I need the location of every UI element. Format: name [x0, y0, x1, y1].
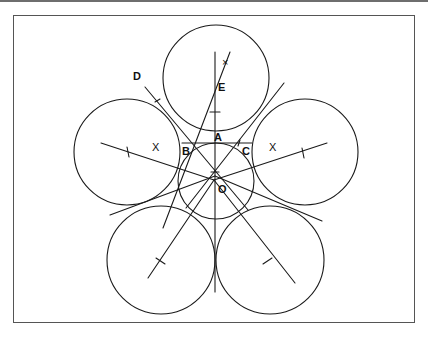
top-circle — [163, 25, 269, 131]
x-mark-right: X — [269, 141, 277, 153]
label-e: E — [218, 81, 225, 93]
label-d: D — [133, 70, 141, 82]
x-mark-left: X — [152, 141, 160, 153]
construction-diagram: D E A B C O X X × — [0, 0, 428, 338]
label-c: C — [242, 145, 250, 157]
tick-right — [302, 148, 304, 158]
label-b: B — [182, 145, 190, 157]
radial-line-bottom-right — [214, 180, 295, 283]
bottom-left-circle — [107, 206, 215, 314]
bottom-right-circle — [216, 206, 324, 314]
x-mark-top: × — [222, 56, 228, 68]
label-o: O — [218, 183, 227, 195]
tangent-lower-right — [215, 176, 322, 221]
tangent-lower-left — [110, 176, 215, 215]
tick-bottom-right — [263, 258, 272, 264]
label-a: A — [214, 131, 222, 143]
right-circle — [252, 99, 358, 205]
